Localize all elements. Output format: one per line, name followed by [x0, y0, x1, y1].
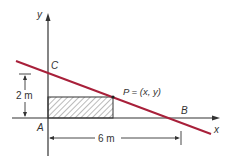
- x-axis: [12, 116, 220, 121]
- rectangle-under-line-diagram: y x C A B P = (x, y) 2 m 6 m: [0, 0, 229, 162]
- width-dimension: [49, 131, 181, 145]
- arrow-up-icon: [23, 75, 27, 80]
- y-axis-arrow-icon: [46, 13, 51, 21]
- x-axis-label: x: [213, 124, 220, 135]
- point-a-label: A: [36, 122, 44, 133]
- arrow-left-icon: [49, 136, 54, 140]
- arrow-down-icon: [23, 112, 27, 117]
- x-axis-arrow-icon: [212, 116, 220, 121]
- hatched-rectangle: [48, 97, 113, 118]
- point-p-marker: [111, 95, 114, 98]
- height-label: 2 m: [16, 90, 33, 101]
- arrow-right-icon: [175, 136, 180, 140]
- y-axis: [46, 13, 51, 156]
- width-label: 6 m: [98, 133, 115, 144]
- point-b-label: B: [181, 105, 188, 116]
- point-p-label: P = (x, y): [123, 86, 161, 97]
- point-c-label: C: [51, 60, 59, 71]
- y-axis-label: y: [36, 9, 43, 20]
